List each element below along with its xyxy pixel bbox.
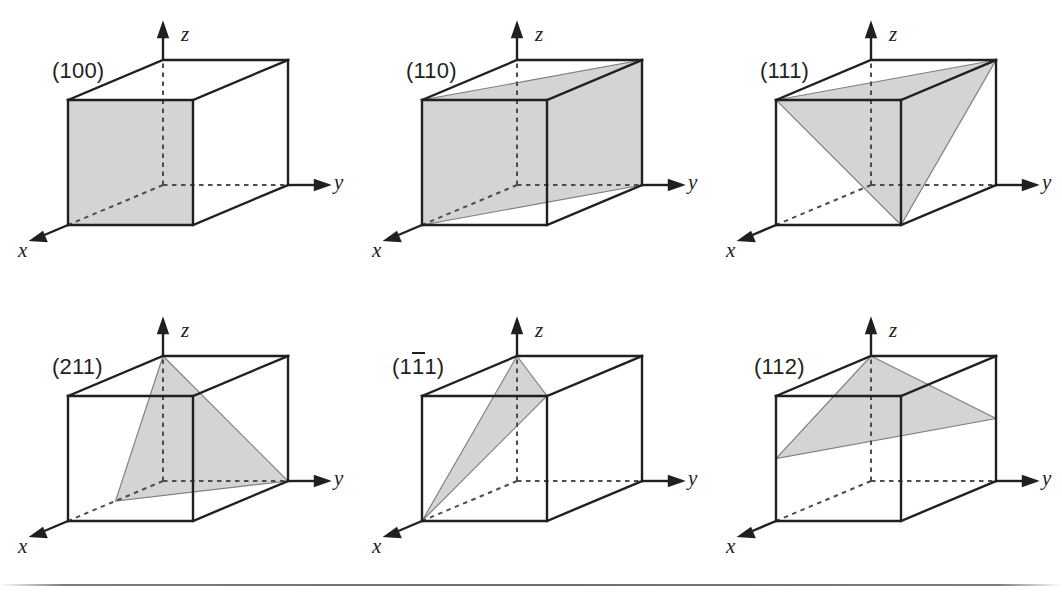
index-post: 11) bbox=[778, 58, 809, 83]
axis-label-x: x bbox=[372, 536, 381, 557]
index-pre: (2 bbox=[52, 354, 72, 379]
plane-110-fill bbox=[422, 60, 642, 225]
index-pre: (1 bbox=[52, 58, 72, 83]
unit-cell-112: (112) z y x bbox=[708, 296, 1062, 592]
axis-label-z: z bbox=[889, 320, 897, 341]
unit-cell-1b11-drawing bbox=[354, 296, 708, 592]
axis-label-y: y bbox=[1042, 468, 1051, 489]
unit-cell-grid: (100) z y x bbox=[0, 0, 1062, 592]
index-post: 11) bbox=[72, 354, 103, 379]
unit-cell-100: (100) z y x bbox=[0, 0, 354, 296]
unit-cell-111: (111) z y x bbox=[708, 0, 1062, 296]
axis-label-z: z bbox=[535, 24, 543, 45]
axis-label-x: x bbox=[726, 536, 735, 557]
axis-label-z: z bbox=[535, 320, 543, 341]
unit-cell-112-drawing bbox=[708, 296, 1062, 592]
axis-label-x: x bbox=[726, 240, 735, 261]
axis-label-x: x bbox=[372, 240, 381, 261]
index-label-110: (110) bbox=[406, 60, 457, 82]
axis-label-y: y bbox=[334, 172, 343, 193]
unit-cell-111-drawing bbox=[708, 0, 1062, 296]
unit-cell-110-drawing bbox=[354, 0, 708, 296]
index-label-112: (112) bbox=[754, 356, 805, 378]
figure-bottom-rule bbox=[0, 584, 1062, 586]
index-label-111: (111) bbox=[760, 60, 809, 82]
index-label-1b11: (111) bbox=[392, 356, 444, 378]
index-post: 10) bbox=[424, 58, 456, 83]
axis-label-y: y bbox=[688, 172, 697, 193]
index-pre: (1 bbox=[754, 354, 772, 379]
axis-label-y: y bbox=[334, 468, 343, 489]
index-post: 00) bbox=[72, 58, 104, 83]
axis-label-y: y bbox=[688, 468, 697, 489]
unit-cell-1b11: (111) z y x bbox=[354, 296, 708, 592]
plane-1b11-fill bbox=[422, 356, 547, 521]
axis-label-z: z bbox=[889, 24, 897, 45]
index-post: 12) bbox=[772, 354, 804, 379]
plane-111-fill bbox=[776, 60, 996, 225]
axis-label-x: x bbox=[18, 536, 27, 557]
index-pre: (1 bbox=[392, 354, 412, 379]
plane-211-fill bbox=[116, 356, 289, 501]
plane-112-fill bbox=[776, 356, 996, 459]
index-pre: (1 bbox=[760, 58, 778, 83]
axis-label-z: z bbox=[181, 24, 189, 45]
unit-cell-100-drawing bbox=[0, 0, 354, 296]
plane-100-fill bbox=[68, 100, 193, 225]
index-bar: 1 bbox=[412, 356, 424, 378]
index-label-100: (100) bbox=[52, 60, 104, 82]
axes-1b11 bbox=[386, 320, 682, 537]
unit-cell-110: (110) z y x bbox=[354, 0, 708, 296]
unit-cell-211: (211) z y x bbox=[0, 296, 354, 592]
index-post: 1) bbox=[424, 354, 444, 379]
axis-label-z: z bbox=[181, 320, 189, 341]
index-pre: (1 bbox=[406, 58, 424, 83]
axis-label-x: x bbox=[18, 240, 27, 261]
unit-cell-211-drawing bbox=[0, 296, 354, 592]
miller-indices-figure: (100) z y x bbox=[0, 0, 1062, 592]
axis-label-y: y bbox=[1042, 172, 1051, 193]
index-label-211: (211) bbox=[52, 356, 103, 378]
